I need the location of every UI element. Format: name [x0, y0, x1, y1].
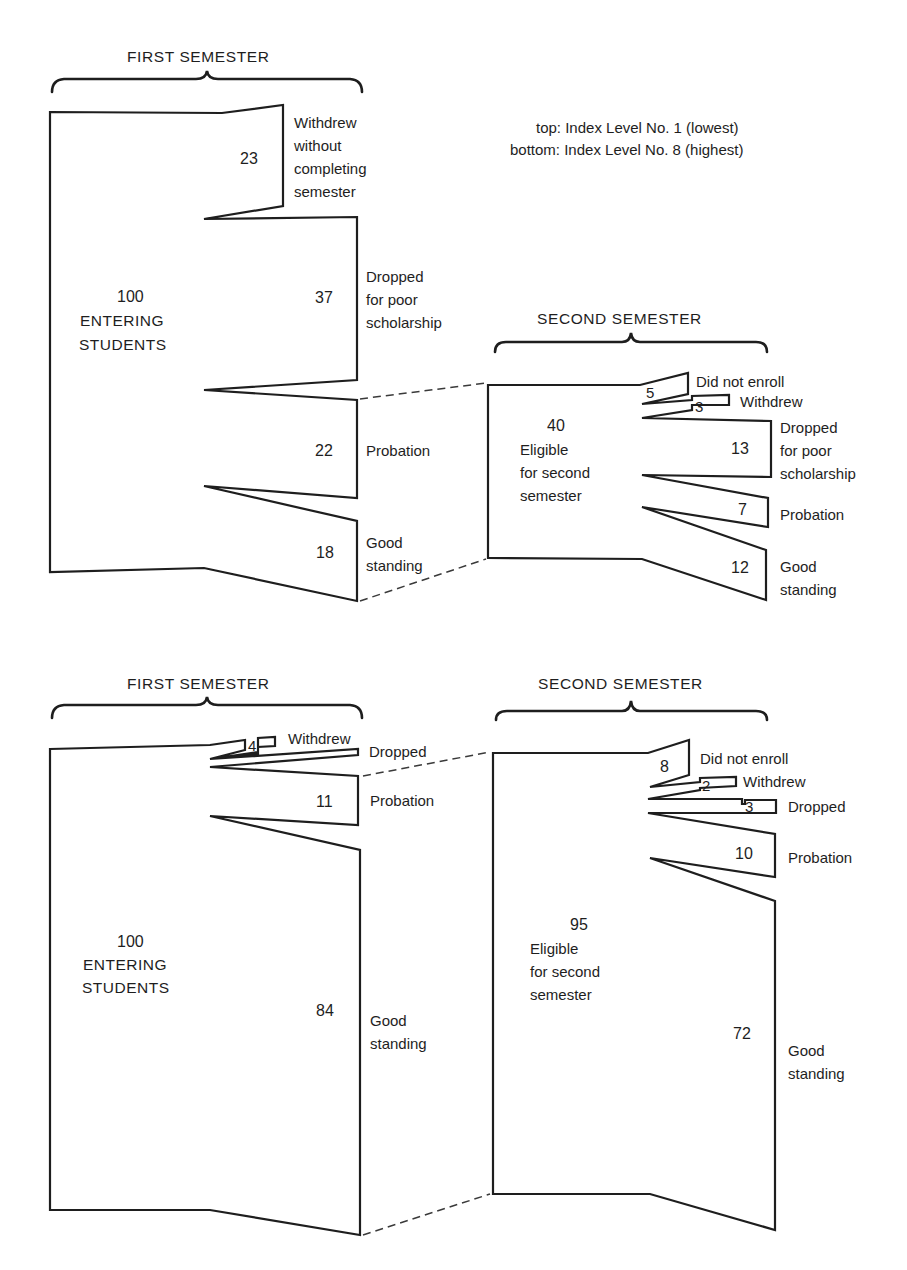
brace-icon — [52, 71, 362, 92]
entering-label-line1: ENTERING — [83, 956, 167, 973]
outcome-value-withdrew: 3 — [695, 398, 703, 415]
outcome-label-dropped-2: for poor — [780, 442, 832, 459]
eligible-line3: semester — [530, 986, 592, 1003]
outcome-value-good-standing: 84 — [316, 1002, 334, 1019]
outcome-value-did-not-enroll: 8 — [660, 758, 669, 775]
outcome-value-probation: 7 — [738, 501, 747, 518]
bottom-second-semester: SECOND SEMESTER 95 Eligible for second s… — [493, 675, 852, 1230]
outcome-label-withdrew: Withdrew — [740, 393, 803, 410]
semester-title: FIRST SEMESTER — [127, 675, 269, 692]
outcome-value-withdrew: 2 — [702, 777, 710, 794]
outcome-label-probation: Probation — [780, 506, 844, 523]
top-first-semester: FIRST SEMESTER 100 ENTERING STUDENTS 23 … — [50, 48, 442, 601]
eligible-count: 95 — [570, 916, 588, 933]
outcome-label-good-2: standing — [366, 557, 423, 574]
outcome-value-withdrew: 23 — [240, 150, 258, 167]
outcome-label-probation: Probation — [370, 792, 434, 809]
semester-title: FIRST SEMESTER — [127, 48, 269, 65]
entering-count: 100 — [117, 933, 144, 950]
entering-count: 100 — [117, 288, 144, 305]
legend-line-top: top: Index Level No. 1 (lowest) — [536, 119, 739, 136]
legend: top: Index Level No. 1 (lowest) bottom: … — [510, 119, 743, 158]
semester-title: SECOND SEMESTER — [538, 675, 703, 692]
semester-title: SECOND SEMESTER — [537, 310, 702, 327]
outcome-label-withdrew: Withdrew — [288, 730, 351, 747]
eligible-line2: for second — [530, 963, 600, 980]
outcome-label-probation: Probation — [788, 849, 852, 866]
eligible-line1: Eligible — [530, 940, 578, 957]
outcome-value-dropped: 3 — [745, 798, 753, 815]
outcome-label-dropped-1: Dropped — [780, 419, 838, 436]
student-flow-diagram: top: Index Level No. 1 (lowest) bottom: … — [0, 0, 907, 1270]
outcome-label-did-not-enroll: Did not enroll — [696, 373, 784, 390]
eligible-line1: Eligible — [520, 441, 568, 458]
brace-icon — [495, 333, 767, 352]
connector-line-top — [360, 383, 486, 399]
outcome-value-did-not-enroll: 5 — [646, 384, 654, 401]
outcome-label-good-2: standing — [780, 581, 837, 598]
entering-label-line2: STUDENTS — [79, 336, 167, 353]
entering-label-line2: STUDENTS — [82, 979, 170, 996]
outcome-label-good-1: Good — [366, 534, 403, 551]
outcome-value-good-standing: 12 — [731, 559, 749, 576]
outcome-value-good-standing: 72 — [733, 1025, 751, 1042]
eligible-line2: for second — [520, 464, 590, 481]
outcome-label-good-2: standing — [788, 1065, 845, 1082]
outcome-label-withdrew-2: without — [293, 137, 342, 154]
outcome-label-dropped: Dropped — [369, 743, 427, 760]
connector-line-bottom — [363, 1194, 490, 1235]
entering-label-line1: ENTERING — [80, 312, 164, 329]
outcome-value-dropped: 37 — [315, 289, 333, 306]
outcome-label-dropped-1: Dropped — [366, 268, 424, 285]
brace-icon — [496, 701, 767, 720]
outcome-value-probation: 10 — [735, 845, 753, 862]
bottom-first-semester: FIRST SEMESTER 100 ENTERING STUDENTS 4 1… — [50, 675, 434, 1235]
outcome-label-good-2: standing — [370, 1035, 427, 1052]
eligible-count: 40 — [547, 417, 565, 434]
eligible-line3: semester — [520, 487, 582, 504]
outcome-label-probation: Probation — [366, 442, 430, 459]
outcome-value-good-standing: 18 — [316, 544, 334, 561]
outcome-value-dropped: 13 — [731, 440, 749, 457]
outcome-label-dropped: Dropped — [788, 798, 846, 815]
outcome-label-did-not-enroll: Did not enroll — [700, 750, 788, 767]
outcome-label-good-1: Good — [788, 1042, 825, 1059]
outcome-label-withdrew: Withdrew — [743, 773, 806, 790]
outcome-label-dropped-3: scholarship — [366, 314, 442, 331]
legend-line-bottom: bottom: Index Level No. 8 (highest) — [510, 141, 743, 158]
outcome-label-good-1: Good — [370, 1012, 407, 1029]
outcome-label-withdrew-3: completing — [294, 160, 367, 177]
outcome-label-good-1: Good — [780, 558, 817, 575]
outcome-label-withdrew-4: semester — [294, 183, 356, 200]
outcome-label-dropped-3: scholarship — [780, 465, 856, 482]
brace-icon — [52, 697, 362, 718]
outcome-value-probation: 11 — [316, 793, 333, 810]
outcome-label-withdrew-1: Withdrew — [294, 114, 357, 131]
outcome-value-probation: 22 — [315, 442, 333, 459]
eligible-block — [493, 740, 776, 1230]
top-second-semester: SECOND SEMESTER 40 Eligible for second s… — [488, 310, 856, 600]
outcome-value-withdrew: 4 — [248, 737, 256, 754]
entering-students-block — [50, 105, 357, 601]
outcome-label-dropped-2: for poor — [366, 291, 418, 308]
